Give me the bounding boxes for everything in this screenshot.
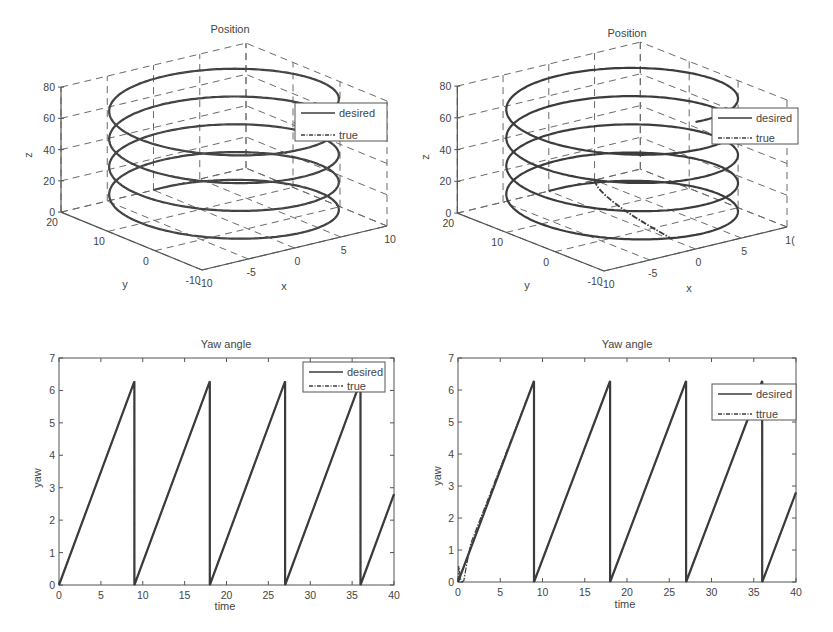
y-tick-label: 6 <box>49 384 55 396</box>
x-tick-label: 1( <box>785 234 795 246</box>
x-tick-label: 25 <box>663 586 675 598</box>
series-true-line <box>59 381 394 585</box>
x-tick-label: 20 <box>621 586 633 598</box>
x-tick-label: 0 <box>295 255 301 267</box>
z-tick-label: 80 <box>440 80 452 92</box>
x-tick-label: 30 <box>304 589 316 601</box>
position-3d-plot-left: -10-50510-1001020020406080Positionxyzdes… <box>22 23 396 292</box>
z-tick-label: 40 <box>43 144 55 156</box>
y-tick-label: 3 <box>49 482 55 494</box>
y-tick-label: 4 <box>49 449 55 461</box>
grid-line <box>246 43 387 101</box>
x-tick-label: 5 <box>497 586 503 598</box>
z-tick-label: 40 <box>440 144 452 156</box>
legend-label: true <box>347 380 366 392</box>
x-tick-label: 0 <box>696 256 702 268</box>
series-desired-line <box>109 69 339 239</box>
x-tick-label: 25 <box>263 589 275 601</box>
y-axis <box>457 213 604 271</box>
figure-canvas: -10-50510-1001020020406080Positionxyzdes… <box>0 0 833 632</box>
x-tick-label: 10 <box>537 586 549 598</box>
legend-label: ttrue <box>756 408 778 420</box>
x-tick-label: 0 <box>56 589 62 601</box>
series-true-line <box>109 69 339 239</box>
x-tick-label: 5 <box>741 245 747 257</box>
x-tick-label: 15 <box>579 586 591 598</box>
grid-line <box>549 191 696 249</box>
x-tick-label: 35 <box>748 586 760 598</box>
x-axis-label: x <box>686 282 692 294</box>
z-axis-label: z <box>419 154 431 160</box>
position-3d-plot-right: -10-5051(-1001020020406080Positionxyzdes… <box>419 27 798 294</box>
x-tick-label: 5 <box>98 589 104 601</box>
legend-label: desired <box>347 366 383 378</box>
x-tick-label: 40 <box>388 589 400 601</box>
y-axis-label: y <box>122 278 128 290</box>
y-tick-label: -10 <box>185 274 200 286</box>
x-axis-label: time <box>615 598 636 610</box>
x-axis-label: time <box>215 600 236 612</box>
y-tick-label: -10 <box>587 275 602 287</box>
yaw-angle-plot-right: 051015202530354001234567Yaw angletimeyaw… <box>431 338 802 610</box>
y-tick-label: 1 <box>49 547 55 559</box>
y-axis-label: y <box>524 279 530 291</box>
series-desired-line <box>506 68 738 240</box>
y-axis-label: yaw <box>431 466 443 486</box>
chart-title: Position <box>210 23 249 35</box>
y-tick-label: 5 <box>49 417 55 429</box>
x-axis-label: x <box>281 280 287 292</box>
x-tick-label: 0 <box>455 586 461 598</box>
z-tick-label: 0 <box>445 207 451 219</box>
grid-line <box>640 169 787 227</box>
legend-label: desired <box>756 112 792 124</box>
y-tick-label: 3 <box>448 480 454 492</box>
y-tick-label: 0 <box>143 255 149 267</box>
z-tick-label: 0 <box>49 206 55 218</box>
y-tick-label: 7 <box>49 352 55 364</box>
z-tick-label: 60 <box>43 112 55 124</box>
y-tick-label: 0 <box>49 579 55 591</box>
z-tick-label: 60 <box>440 112 452 124</box>
y-axis <box>61 212 202 270</box>
y-tick-label: 7 <box>448 352 454 364</box>
y-tick-label: 4 <box>448 448 454 460</box>
x-tick-label: 35 <box>346 589 358 601</box>
legend-label: true <box>756 132 775 144</box>
y-tick-label: 10 <box>491 236 503 248</box>
legend-label: true <box>339 129 358 141</box>
y-tick-label: 2 <box>448 512 454 524</box>
y-tick-label: 2 <box>49 514 55 526</box>
x-tick-label: 10 <box>137 589 149 601</box>
series-desired-line <box>59 381 394 585</box>
chart-title: Yaw angle <box>602 338 653 350</box>
y-tick-label: 1 <box>448 544 454 556</box>
x-tick-label: 40 <box>790 586 802 598</box>
y-tick-label: 0 <box>543 256 549 268</box>
y-tick-label: 10 <box>93 235 105 247</box>
chart-title: Position <box>607 27 646 39</box>
x-tick-label: 30 <box>706 586 718 598</box>
x-tick-label: -5 <box>648 267 657 279</box>
grid-line <box>246 168 387 226</box>
x-tick-label: 10 <box>384 233 396 245</box>
x-tick-label: -5 <box>247 266 256 278</box>
chart-title: Yaw angle <box>201 338 252 350</box>
y-tick-label: 5 <box>448 416 454 428</box>
z-axis-label: z <box>22 152 34 158</box>
legend-label: desired <box>756 388 792 400</box>
z-tick-label: 20 <box>440 175 452 187</box>
y-tick-label: 0 <box>448 576 454 588</box>
x-tick-label: 5 <box>341 244 347 256</box>
legend-label: desired <box>339 107 375 119</box>
x-tick-label: 15 <box>179 589 191 601</box>
yaw-angle-plot-left: 051015202530354001234567Yaw angletimeyaw… <box>31 338 400 612</box>
z-tick-label: 80 <box>43 81 55 93</box>
y-axis-label: yaw <box>31 468 43 488</box>
y-tick-label: 6 <box>448 384 454 396</box>
grid-line <box>640 42 787 100</box>
z-tick-label: 20 <box>43 175 55 187</box>
